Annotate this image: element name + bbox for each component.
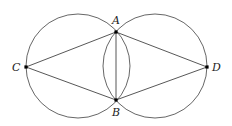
label-a: A bbox=[111, 14, 120, 27]
segment-cb bbox=[26, 67, 116, 100]
geometry-diagram: ABCD bbox=[0, 0, 232, 126]
label-d: D bbox=[211, 61, 221, 74]
label-b: B bbox=[111, 106, 120, 119]
point-d bbox=[205, 65, 208, 68]
segments-group bbox=[26, 32, 207, 100]
left-circle bbox=[26, 14, 130, 118]
labels-group: ABCD bbox=[12, 14, 221, 119]
right-circle bbox=[103, 14, 207, 118]
points-group bbox=[24, 30, 208, 101]
label-c: C bbox=[12, 61, 21, 74]
point-c bbox=[24, 65, 27, 68]
point-b bbox=[114, 98, 117, 101]
segment-ac bbox=[26, 32, 116, 67]
point-a bbox=[114, 30, 117, 33]
circles-group bbox=[26, 14, 207, 118]
